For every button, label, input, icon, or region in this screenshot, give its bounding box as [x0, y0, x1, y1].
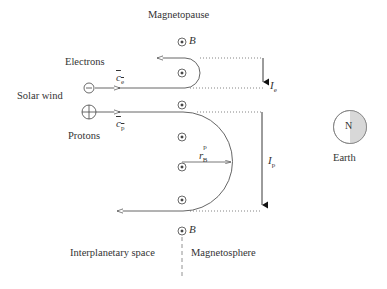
electrons-label: Electrons [65, 56, 105, 67]
gyroradius-label: rpB [199, 148, 211, 164]
proton-current-label: Ip [268, 154, 275, 169]
magnetosphere-label: Magnetosphere [191, 247, 256, 258]
magnetopause-label: Magnetopause [148, 9, 209, 20]
earth-pole-label: N [345, 120, 352, 131]
proton-velocity-label: cp [116, 117, 124, 132]
electron-velocity-label: ce [116, 71, 124, 86]
electron-trajectory [95, 58, 200, 88]
field-out-of-page-icon [178, 38, 186, 235]
current-boundary-dotted [190, 58, 263, 211]
electron-icon [84, 83, 94, 93]
field-symbol-bottom: B [189, 223, 196, 235]
field-symbol-top: B [189, 34, 196, 46]
solar-wind-label: Solar wind [17, 90, 63, 101]
electron-current-label: Ie [270, 79, 277, 94]
interplanetary-space-label: Interplanetary space [70, 247, 155, 258]
earth-label: Earth [333, 152, 356, 163]
protons-label: Protons [68, 130, 100, 141]
proton-icon [82, 105, 96, 119]
